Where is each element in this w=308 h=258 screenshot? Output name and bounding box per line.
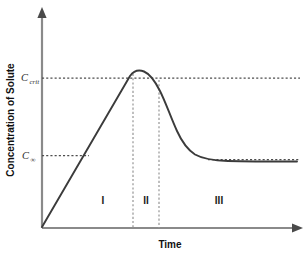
- c-crit-tick-subscript: crit: [30, 78, 41, 86]
- region-label-i: I: [102, 195, 105, 206]
- figure-root: C crit C ∞ I II III Time Concentration o…: [0, 0, 308, 258]
- x-axis-title: Time: [158, 239, 182, 250]
- y-axis-title: Concentration of Solute: [5, 63, 16, 177]
- c-crit-tick-base: C: [21, 72, 29, 83]
- arrow-right-icon: [292, 223, 303, 232]
- y-tick-labels: C crit C ∞: [21, 72, 40, 164]
- arrow-up-icon: [37, 7, 46, 18]
- region-label-ii: II: [143, 195, 149, 206]
- axis-group: [37, 7, 303, 233]
- concentration-curve: [42, 71, 297, 227]
- concentration-vs-time-chart: C crit C ∞ I II III Time Concentration o…: [0, 0, 308, 258]
- region-labels: I II III: [102, 195, 224, 206]
- region-label-iii: III: [215, 195, 224, 206]
- c-infinity-tick-base: C: [22, 150, 30, 161]
- c-infinity-tick-subscript: ∞: [31, 156, 36, 164]
